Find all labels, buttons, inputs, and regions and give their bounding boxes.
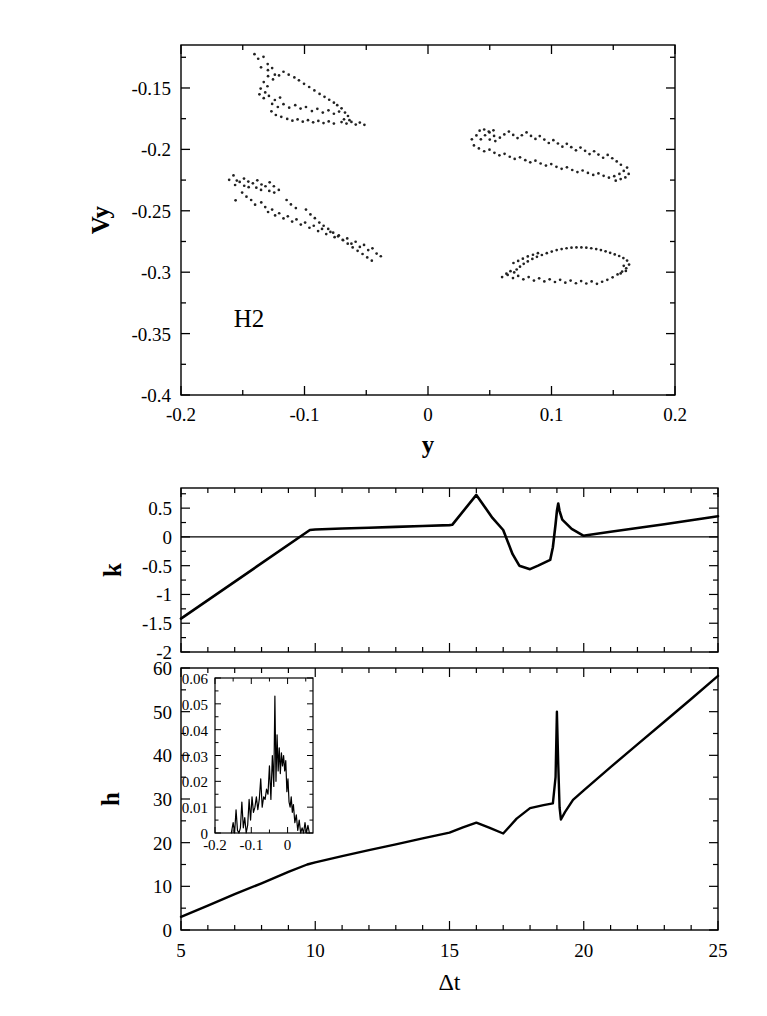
x-tick-label-3: 0.1 bbox=[540, 404, 564, 425]
data-point bbox=[341, 238, 344, 241]
k-y-tick-label: 0 bbox=[163, 527, 173, 548]
inset-y-tick-label: 0.02 bbox=[182, 774, 208, 790]
data-point bbox=[267, 69, 270, 72]
data-point bbox=[307, 119, 310, 122]
data-point bbox=[286, 215, 289, 218]
data-point bbox=[340, 107, 343, 110]
data-point bbox=[626, 259, 629, 262]
data-point bbox=[247, 186, 250, 189]
data-point bbox=[333, 122, 336, 125]
data-point bbox=[299, 107, 302, 110]
inset-panel: -0.2-0.1000.010.020.030.040.050.06 bbox=[182, 671, 313, 853]
data-point bbox=[618, 255, 621, 258]
data-point bbox=[361, 253, 364, 256]
inset-y-tick-label: 0.04 bbox=[182, 723, 209, 739]
data-point bbox=[260, 183, 263, 186]
data-point bbox=[493, 135, 496, 138]
data-point bbox=[268, 190, 271, 193]
data-point bbox=[287, 73, 290, 76]
x-tick-label-0: -0.2 bbox=[166, 404, 196, 425]
data-point bbox=[340, 121, 343, 124]
data-point bbox=[328, 98, 331, 101]
data-point bbox=[354, 240, 357, 243]
data-point bbox=[618, 173, 621, 176]
data-point bbox=[499, 136, 502, 139]
k-panel: -2-1.5-1-0.500.5k bbox=[99, 488, 718, 663]
data-point bbox=[519, 156, 522, 159]
data-point bbox=[615, 160, 618, 163]
data-point bbox=[345, 122, 348, 125]
data-point bbox=[262, 97, 265, 100]
data-point bbox=[286, 118, 289, 121]
inset-y-tick-label: 0.03 bbox=[182, 749, 208, 765]
data-point bbox=[534, 159, 537, 162]
data-point bbox=[522, 257, 525, 260]
data-point bbox=[611, 157, 614, 160]
figure-canvas: -0.2-0.100.10.2-0.4-0.35-0.3-0.25-0.2-0.… bbox=[0, 0, 767, 1016]
data-point bbox=[543, 280, 546, 283]
data-point bbox=[285, 199, 288, 202]
data-point bbox=[270, 110, 273, 113]
data-point bbox=[587, 172, 590, 175]
h-axis-title: h bbox=[97, 792, 124, 806]
data-point bbox=[584, 150, 587, 153]
inset-background bbox=[215, 678, 313, 833]
x-axis-title: y bbox=[422, 431, 435, 458]
data-point bbox=[279, 96, 282, 99]
data-point bbox=[260, 66, 263, 69]
data-point bbox=[311, 110, 314, 113]
data-point bbox=[593, 150, 596, 153]
data-point bbox=[613, 175, 616, 178]
h-y-tick-label: 20 bbox=[153, 833, 172, 854]
data-point bbox=[235, 179, 238, 182]
data-point bbox=[624, 176, 627, 179]
data-point bbox=[516, 137, 519, 140]
data-point bbox=[371, 247, 374, 250]
data-point bbox=[590, 247, 593, 250]
data-point bbox=[575, 149, 578, 152]
inset-y-tick-label: 0 bbox=[201, 826, 209, 842]
h-y-tick-label: 0 bbox=[163, 920, 173, 941]
data-point bbox=[545, 252, 548, 255]
data-point bbox=[508, 155, 511, 158]
data-point bbox=[275, 114, 278, 117]
data-point bbox=[597, 172, 600, 175]
data-point bbox=[604, 250, 607, 253]
data-point bbox=[536, 255, 539, 258]
y-tick-label: -0.4 bbox=[141, 385, 172, 406]
data-point bbox=[322, 224, 325, 227]
data-point bbox=[519, 265, 522, 268]
data-point bbox=[314, 217, 317, 220]
data-point bbox=[628, 263, 631, 266]
k-y-tick-label: -1.5 bbox=[142, 613, 172, 634]
x-tick-label-4: 0.2 bbox=[663, 404, 687, 425]
data-point bbox=[498, 154, 501, 157]
data-point bbox=[541, 254, 544, 257]
data-point bbox=[532, 253, 535, 256]
data-point bbox=[575, 246, 578, 249]
data-point bbox=[622, 264, 625, 267]
inset-x-tick-label: -0.1 bbox=[239, 837, 263, 853]
data-point bbox=[271, 67, 274, 70]
data-point bbox=[316, 108, 319, 111]
h-x-tick-label: 5 bbox=[176, 940, 186, 961]
scatter-cluster-lower-right-loop bbox=[501, 246, 631, 285]
data-point bbox=[291, 220, 294, 223]
data-point bbox=[575, 282, 578, 285]
data-point bbox=[258, 93, 261, 96]
data-point bbox=[264, 185, 267, 188]
data-point bbox=[274, 73, 277, 76]
data-point bbox=[554, 281, 557, 284]
data-point bbox=[325, 233, 328, 236]
data-point bbox=[234, 184, 237, 187]
data-point bbox=[356, 249, 359, 252]
data-point bbox=[622, 257, 625, 260]
data-point bbox=[274, 214, 277, 217]
data-point bbox=[271, 208, 274, 211]
data-point bbox=[560, 167, 563, 170]
data-point bbox=[317, 230, 320, 233]
y-tick-label: -0.35 bbox=[131, 324, 171, 345]
data-point bbox=[333, 112, 336, 115]
data-point bbox=[257, 57, 260, 60]
data-point bbox=[492, 129, 495, 132]
